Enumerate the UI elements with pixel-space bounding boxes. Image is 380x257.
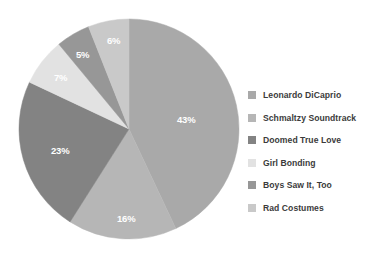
legend-item-label: Girl Bonding	[263, 158, 316, 168]
pie-slice-value-label: 23%	[51, 145, 70, 156]
pie-slice-value-label: 7%	[54, 72, 68, 83]
legend-item-label: Rad Costumes	[263, 203, 324, 213]
legend-item[interactable]: Schmaltzy Soundtrack	[248, 109, 376, 127]
chart-legend: Leonardo DiCaprioSchmaltzy SoundtrackDoo…	[248, 86, 376, 222]
legend-item[interactable]: Girl Bonding	[248, 154, 376, 172]
legend-color-swatch	[248, 181, 256, 189]
legend-color-swatch	[248, 204, 256, 212]
legend-item[interactable]: Leonardo DiCaprio	[248, 86, 376, 104]
legend-color-swatch	[248, 91, 256, 99]
pie-chart-figure: 43%16%23%7%5%6% Leonardo DiCaprioSchmalt…	[0, 0, 380, 257]
legend-item-label: Doomed True Love	[263, 135, 341, 145]
legend-color-swatch	[248, 136, 256, 144]
pie-slice-group	[19, 19, 239, 239]
legend-item[interactable]: Rad Costumes	[248, 199, 376, 217]
pie-slice-value-label: 6%	[107, 35, 121, 46]
legend-item-label: Leonardo DiCaprio	[263, 90, 341, 100]
legend-item[interactable]: Doomed True Love	[248, 131, 376, 149]
legend-color-swatch	[248, 114, 256, 122]
pie-slice-value-label: 43%	[177, 114, 196, 125]
legend-item-label: Boys Saw It, Too	[263, 180, 332, 190]
legend-color-swatch	[248, 159, 256, 167]
pie-slice-value-label: 16%	[117, 213, 136, 224]
legend-item-label: Schmaltzy Soundtrack	[263, 113, 356, 123]
pie-chart-svg: 43%16%23%7%5%6%	[18, 8, 240, 250]
pie-chart-plot-area: 43%16%23%7%5%6%	[18, 8, 240, 250]
legend-item[interactable]: Boys Saw It, Too	[248, 176, 376, 194]
pie-slice-value-label: 5%	[76, 49, 90, 60]
